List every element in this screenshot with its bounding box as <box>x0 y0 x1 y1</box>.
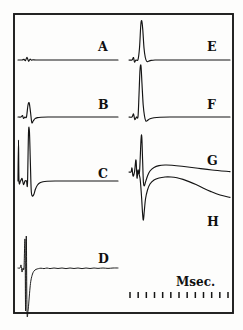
trace-h <box>138 172 230 220</box>
trace-label-b: B <box>98 99 109 112</box>
trace-label-e: E <box>207 41 217 54</box>
trace-label-h: H <box>207 216 219 229</box>
trace-label-g: G <box>207 155 218 168</box>
trace-group <box>18 21 230 317</box>
trace-label-a: A <box>98 41 108 54</box>
figure-panel: ABCDEFGH Msec. <box>0 0 243 330</box>
trace-a <box>18 57 118 61</box>
trace-label-c: C <box>98 168 108 181</box>
axis-caption-msec: Msec. <box>176 276 215 288</box>
trace-f <box>129 65 230 121</box>
trace-label-d: D <box>98 253 109 266</box>
trace-label-f: F <box>207 99 216 112</box>
time-calibration-ticks <box>130 292 228 298</box>
trace-d <box>18 236 118 317</box>
trace-c <box>18 127 118 196</box>
